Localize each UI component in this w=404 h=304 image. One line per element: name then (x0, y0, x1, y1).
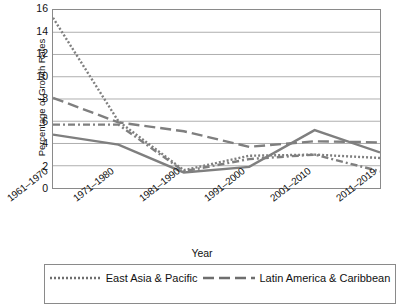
legend-item[interactable]: Latin America & Caribbean (203, 272, 390, 284)
x-axis-title: Year (0, 247, 404, 259)
legend-entries: East Asia & PacificLatin America & Carib… (45, 272, 395, 284)
legend-label: Latin America & Caribbean (259, 272, 390, 284)
x-tick-label: 1981–1990 (137, 165, 182, 203)
x-tick-label: 2011–2019 (334, 166, 378, 204)
legend-line-swatch (203, 273, 255, 283)
legend-item[interactable]: East Asia & Pacific (50, 272, 198, 284)
legend-label: East Asia & Pacific (106, 272, 198, 284)
x-tick-label: 1991–2000 (202, 165, 247, 203)
x-tick-label: 1961–1970 (5, 165, 50, 203)
legend-line-swatch (50, 273, 102, 283)
x-tick-label: 1971–1980 (71, 165, 116, 203)
legend: East Asia & PacificLatin America & Carib… (44, 264, 396, 304)
x-tick-label: 2001–2010 (268, 165, 313, 203)
